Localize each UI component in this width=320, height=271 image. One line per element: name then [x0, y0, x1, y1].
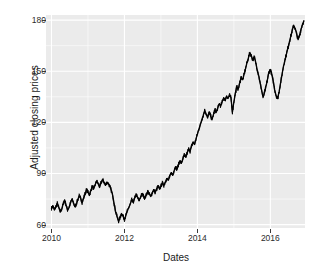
y-tick-mark-120: [42, 122, 46, 123]
x-axis-title: Dates: [46, 252, 306, 263]
series-path: [51, 21, 303, 221]
chart-container: Adjusted closing prices 1801501209060 20…: [0, 0, 320, 271]
x-tick-mark-2012: [124, 229, 125, 233]
line-chart-svg: [46, 15, 305, 228]
x-tick-mark-2014: [197, 229, 198, 233]
x-tick-label-2012: 2012: [115, 233, 134, 243]
x-tick-mark-2010: [51, 229, 52, 233]
x-tick-mark-2016: [270, 229, 271, 233]
x-tick-label-2010: 2010: [42, 233, 61, 243]
series-path-detail: [51, 20, 303, 223]
y-tick-label-180: 180: [6, 15, 46, 25]
y-tick-mark-150: [42, 71, 46, 72]
y-tick-label-150: 150: [6, 66, 46, 76]
x-tick-label-2016: 2016: [261, 233, 280, 243]
x-tick-label-2014: 2014: [188, 233, 207, 243]
y-tick-label-90: 90: [6, 168, 46, 178]
y-tick-mark-180: [42, 20, 46, 21]
y-tick-mark-60: [42, 225, 46, 226]
y-tick-label-60: 60: [6, 220, 46, 230]
y-tick-label-120: 120: [6, 117, 46, 127]
plot-panel: [46, 15, 305, 228]
y-tick-mark-90: [42, 173, 46, 174]
price-series-line: [51, 20, 303, 223]
